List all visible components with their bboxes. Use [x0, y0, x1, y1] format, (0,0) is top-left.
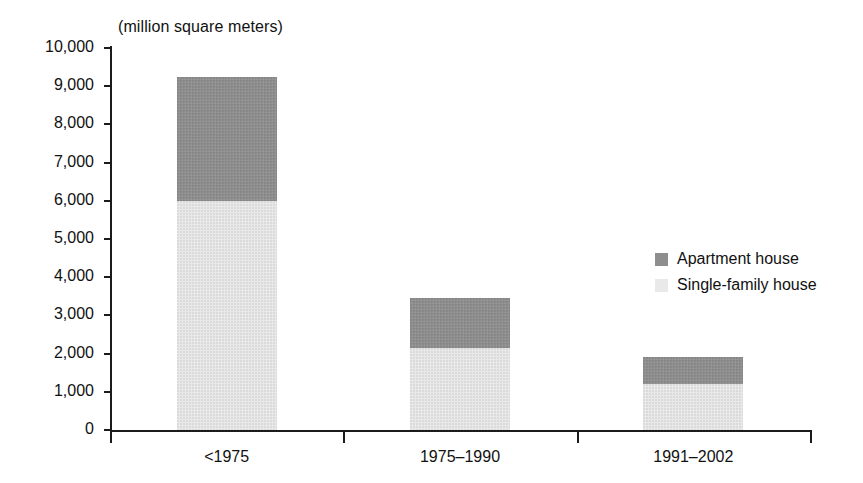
bar-segment-apartment-house — [643, 357, 743, 384]
bar-segment-single-family-house — [410, 348, 510, 430]
x-axis-category-label: 1991–2002 — [577, 448, 810, 466]
y-axis-tick-label: 7,000 — [8, 153, 94, 171]
y-axis-tick — [104, 276, 112, 278]
x-axis-tick — [343, 430, 345, 443]
bar-2 — [410, 298, 510, 430]
y-axis-tick — [104, 123, 112, 125]
bar-segment-apartment-house — [177, 77, 277, 201]
legend-swatch-icon — [655, 279, 668, 292]
y-axis-tick — [104, 47, 112, 49]
y-axis-tick-label: 6,000 — [8, 191, 94, 209]
y-axis-tick — [104, 353, 112, 355]
y-axis-tick — [104, 314, 112, 316]
x-axis-category-label: <1975 — [110, 448, 343, 466]
x-axis-line — [110, 430, 810, 432]
chart-axis-title: (million square meters) — [118, 18, 283, 36]
y-axis-tick-label: 5,000 — [8, 229, 94, 247]
legend-item-label: Single-family house — [677, 276, 817, 294]
bar-segment-single-family-house — [643, 384, 743, 430]
y-axis-tick-label: 2,000 — [8, 344, 94, 362]
x-axis-tick — [577, 430, 579, 443]
y-axis-tick-label: 3,000 — [8, 305, 94, 323]
legend-item: Apartment house — [655, 246, 817, 272]
legend-item-label: Apartment house — [677, 250, 799, 268]
y-axis-tick-label: 0 — [8, 420, 94, 438]
bar-segment-single-family-house — [177, 201, 277, 430]
y-axis-tick-label: 9,000 — [8, 76, 94, 94]
bar-1 — [177, 77, 277, 430]
x-axis-tick — [810, 430, 812, 443]
legend-item: Single-family house — [655, 272, 817, 298]
y-axis-tick-label: 10,000 — [8, 38, 94, 56]
y-axis-tick-label: 8,000 — [8, 114, 94, 132]
chart-legend: Apartment houseSingle-family house — [655, 246, 817, 298]
y-axis-tick-label: 4,000 — [8, 267, 94, 285]
chart-container: (million square meters) 01,0002,0003,000… — [0, 0, 863, 483]
legend-swatch-icon — [655, 253, 668, 266]
x-axis-tick — [110, 430, 112, 443]
y-axis-tick — [104, 391, 112, 393]
y-axis-tick — [104, 200, 112, 202]
y-axis-tick — [104, 85, 112, 87]
y-axis-tick — [104, 238, 112, 240]
x-axis-category-label: 1975–1990 — [343, 448, 576, 466]
bar-3 — [643, 357, 743, 430]
y-axis-tick-label: 1,000 — [8, 382, 94, 400]
bar-segment-apartment-house — [410, 298, 510, 348]
y-axis-tick — [104, 162, 112, 164]
